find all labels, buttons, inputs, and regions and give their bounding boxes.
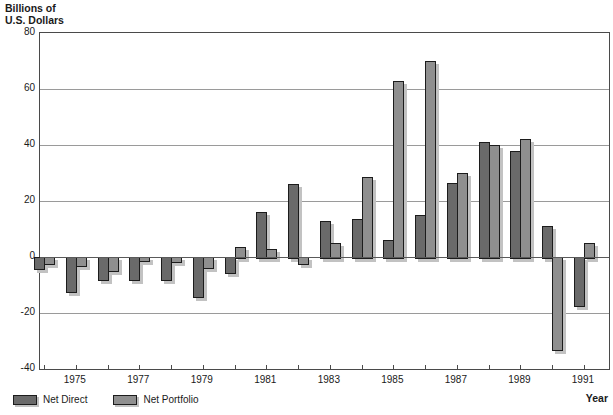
bar-net-portfolio-1987 bbox=[457, 173, 468, 259]
x-tick-1981 bbox=[266, 365, 267, 369]
zero-axis-line bbox=[40, 257, 609, 258]
y-tick-label-60: 60 bbox=[5, 82, 35, 93]
y-tick-label-0: 0 bbox=[5, 250, 35, 261]
x-tick-1976 bbox=[108, 365, 109, 369]
x-tick-label-1981: 1981 bbox=[245, 374, 285, 385]
bar-net-portfolio-1975 bbox=[76, 257, 87, 267]
x-tick-1990 bbox=[552, 365, 553, 369]
net-portfolio-swatch-icon bbox=[113, 395, 137, 405]
x-tick-1986 bbox=[425, 365, 426, 369]
x-axis-title: Year bbox=[586, 392, 608, 404]
y-axis-title-line2: U.S. Dollars bbox=[5, 14, 64, 26]
bar-net-portfolio-1979 bbox=[203, 257, 214, 269]
y-tick-label-80: 80 bbox=[5, 26, 35, 37]
bar-net-portfolio-1982 bbox=[298, 257, 309, 265]
legend-label-net-direct: Net Direct bbox=[43, 394, 87, 405]
bar-net-direct-1990 bbox=[542, 226, 553, 259]
legend: Net Direct Net Portfolio bbox=[13, 394, 198, 405]
x-tick-1982 bbox=[298, 365, 299, 369]
x-tick-1979 bbox=[203, 365, 204, 369]
x-tick-label-1989: 1989 bbox=[499, 374, 539, 385]
bar-net-portfolio-1990 bbox=[552, 257, 563, 351]
legend-item-net-portfolio: Net Portfolio bbox=[113, 394, 198, 405]
y-axis-title-line1: Billions of bbox=[5, 2, 64, 14]
y-tick-label-20: 20 bbox=[5, 194, 35, 205]
bar-net-portfolio-1985 bbox=[393, 81, 404, 259]
x-tick-1974 bbox=[44, 365, 45, 369]
bar-net-portfolio-1986 bbox=[425, 61, 436, 259]
x-tick-1989 bbox=[520, 365, 521, 369]
y-tick-label-40: 40 bbox=[5, 138, 35, 149]
bar-net-portfolio-1976 bbox=[108, 257, 119, 272]
y-tick-label--40: -40 bbox=[5, 362, 35, 373]
bar-net-portfolio-1974 bbox=[44, 257, 55, 265]
y-axis-title: Billions of U.S. Dollars bbox=[5, 2, 64, 26]
bar-net-portfolio-1984 bbox=[362, 177, 373, 259]
x-tick-label-1975: 1975 bbox=[55, 374, 95, 385]
x-tick-1991 bbox=[584, 365, 585, 369]
x-tick-label-1977: 1977 bbox=[118, 374, 158, 385]
net-direct-swatch-icon bbox=[13, 395, 37, 405]
x-tick-label-1979: 1979 bbox=[182, 374, 222, 385]
y-tick-label--20: -20 bbox=[5, 306, 35, 317]
x-tick-label-1987: 1987 bbox=[436, 374, 476, 385]
chart-canvas: Billions of U.S. Dollars 806040200-20-40… bbox=[0, 0, 613, 415]
x-tick-1980 bbox=[235, 365, 236, 369]
x-tick-1988 bbox=[489, 365, 490, 369]
bar-net-portfolio-1988 bbox=[489, 145, 500, 259]
bar-net-direct-1991 bbox=[574, 257, 585, 307]
x-tick-1985 bbox=[393, 365, 394, 369]
x-tick-1975 bbox=[76, 365, 77, 369]
x-tick-1977 bbox=[139, 365, 140, 369]
plot-area bbox=[39, 32, 610, 370]
legend-label-net-portfolio: Net Portfolio bbox=[143, 394, 198, 405]
x-tick-1984 bbox=[362, 365, 363, 369]
x-tick-label-1983: 1983 bbox=[309, 374, 349, 385]
x-tick-1983 bbox=[330, 365, 331, 369]
legend-item-net-direct: Net Direct bbox=[13, 394, 87, 405]
x-tick-1987 bbox=[457, 365, 458, 369]
bar-net-portfolio-1989 bbox=[520, 139, 531, 259]
bar-net-direct-1980 bbox=[225, 257, 236, 274]
x-tick-label-1985: 1985 bbox=[372, 374, 412, 385]
x-tick-1978 bbox=[171, 365, 172, 369]
x-tick-label-1991: 1991 bbox=[563, 374, 603, 385]
bar-net-direct-1982 bbox=[288, 184, 299, 259]
gridline--20 bbox=[40, 313, 609, 314]
gridline-60 bbox=[40, 89, 609, 90]
